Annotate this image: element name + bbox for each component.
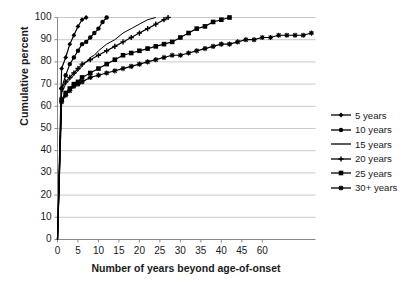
data-point xyxy=(104,48,109,53)
data-point xyxy=(161,55,166,60)
y-tick-label: 100 xyxy=(22,11,52,22)
data-point xyxy=(301,33,306,38)
data-point xyxy=(203,24,208,29)
data-point xyxy=(260,35,265,40)
data-point xyxy=(170,53,175,58)
data-point xyxy=(153,22,158,27)
data-point xyxy=(92,31,96,35)
data-point xyxy=(219,42,224,47)
legend-item-2[interactable]: 10 years xyxy=(330,123,397,138)
data-point xyxy=(96,66,101,71)
data-point xyxy=(235,39,240,44)
legend-marker-icon xyxy=(330,138,352,150)
legend-label: 30+ years xyxy=(355,182,397,193)
legend-marker-icon xyxy=(330,182,352,194)
data-point xyxy=(284,33,289,38)
series-1 xyxy=(58,15,89,239)
data-point xyxy=(276,33,281,38)
data-point xyxy=(104,62,109,67)
data-point xyxy=(145,26,150,31)
data-point xyxy=(178,35,183,40)
data-point xyxy=(112,44,117,49)
legend-label: 25 years xyxy=(355,168,392,179)
x-tick-label: 60 xyxy=(250,245,274,256)
legend-label: 15 years xyxy=(355,139,392,150)
legend-marker-icon xyxy=(330,109,352,121)
legend-item-6[interactable]: 30+ years xyxy=(330,181,397,196)
data-point xyxy=(338,156,343,161)
data-point xyxy=(59,66,64,71)
data-point xyxy=(80,75,85,80)
legend-label: 20 years xyxy=(355,153,392,164)
y-tick-label: 80 xyxy=(22,55,52,66)
legend-item-5[interactable]: 25 years xyxy=(330,166,397,181)
data-point xyxy=(67,42,72,47)
data-point xyxy=(137,49,142,54)
data-point xyxy=(339,128,343,132)
data-point xyxy=(96,73,101,78)
y-tick-label: 40 xyxy=(22,144,52,155)
data-point xyxy=(153,44,158,49)
legend-item-3[interactable]: 15 years xyxy=(330,137,397,152)
data-point xyxy=(68,62,72,66)
data-point xyxy=(79,79,84,84)
data-point xyxy=(137,30,142,35)
legend-item-4[interactable]: 20 years xyxy=(330,152,397,167)
data-point xyxy=(309,30,314,35)
y-tick-label: 60 xyxy=(22,100,52,111)
data-point xyxy=(227,42,232,47)
data-point xyxy=(194,26,199,31)
data-point xyxy=(88,71,93,76)
data-point xyxy=(243,37,248,42)
data-point xyxy=(129,64,134,69)
legend-marker-icon xyxy=(330,167,352,179)
data-point xyxy=(211,44,216,49)
data-point xyxy=(338,185,343,190)
data-point xyxy=(63,55,68,60)
chart-legend: 5 years10 years15 years20 years25 years3… xyxy=(330,108,397,195)
data-point xyxy=(104,15,108,19)
data-point xyxy=(227,15,232,20)
series-line xyxy=(58,33,312,239)
data-point xyxy=(113,57,118,62)
data-point xyxy=(162,42,167,47)
data-point xyxy=(153,57,158,62)
data-point xyxy=(84,40,88,44)
data-point xyxy=(194,48,199,53)
data-point xyxy=(72,55,76,59)
data-point xyxy=(104,70,109,75)
data-point xyxy=(268,35,273,40)
legend-marker-icon xyxy=(330,153,352,165)
y-tick-label: 30 xyxy=(22,166,52,177)
data-point xyxy=(120,66,125,71)
data-point xyxy=(186,31,191,36)
data-point xyxy=(178,53,183,58)
data-point xyxy=(100,20,104,24)
data-point xyxy=(145,59,150,64)
data-point xyxy=(137,62,142,67)
legend-label: 10 years xyxy=(355,124,392,135)
data-point xyxy=(84,15,89,20)
data-point xyxy=(170,40,175,45)
data-point xyxy=(96,26,100,30)
data-point xyxy=(71,33,76,38)
legend-item-1[interactable]: 5 years xyxy=(330,108,397,123)
data-point xyxy=(80,42,84,46)
data-point xyxy=(211,20,216,25)
data-point xyxy=(112,68,117,73)
data-point xyxy=(339,113,344,118)
data-point xyxy=(88,75,93,80)
data-point xyxy=(67,88,72,93)
data-point xyxy=(63,93,68,98)
data-point xyxy=(339,171,344,176)
y-tick-label: 20 xyxy=(22,189,52,200)
data-point xyxy=(219,17,224,22)
data-point xyxy=(59,99,64,104)
legend-label: 5 years xyxy=(355,110,386,121)
data-point xyxy=(292,33,297,38)
data-point xyxy=(251,37,256,42)
data-point xyxy=(129,51,134,56)
data-point xyxy=(88,35,92,39)
x-axis-title: Number of years beyond age-of-onset xyxy=(57,262,315,274)
data-point xyxy=(76,49,80,53)
